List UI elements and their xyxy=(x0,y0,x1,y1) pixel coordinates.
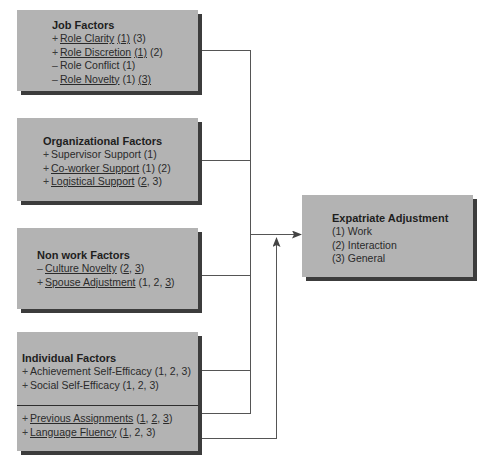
individual-factors-list-bottom: +Previous Assignments (1, 2, 3)+Language… xyxy=(22,412,172,439)
dimension-ref: (1) (2) xyxy=(142,162,171,174)
factor-name: Spouse Adjustment xyxy=(45,276,135,288)
factor-item: +Previous Assignments (1, 2, 3) xyxy=(22,412,172,426)
factor-name: Social Self-Efficacy xyxy=(30,379,120,391)
nonwork-factors-list: –Culture Novelty (2, 3)+Spouse Adjustmen… xyxy=(37,262,198,289)
dimension-ref: (1) xyxy=(117,32,130,44)
factor-name: Culture Novelty xyxy=(45,262,117,274)
effect-sign: + xyxy=(52,32,60,46)
effect-sign: + xyxy=(22,379,30,393)
dimension-ref: (1, 2, 3) xyxy=(155,365,191,377)
dimension-ref: (2) xyxy=(147,46,163,58)
factor-item: +Co-worker Support (1) (2) xyxy=(43,162,198,176)
factor-item: +Social Self-Efficacy (1, 2, 3) xyxy=(22,379,191,393)
nonwork-factors-box: Non work Factors –Culture Novelty (2, 3)… xyxy=(17,228,198,309)
factor-name: Logistical Support xyxy=(51,175,134,187)
individual-factors-bottom-section: +Previous Assignments (1, 2, 3)+Language… xyxy=(22,412,172,439)
job-factors-list: +Role Clarity (1) (3)+Role Discretion (1… xyxy=(52,32,198,86)
dimension-ref: ) xyxy=(141,262,145,274)
organizational-factors-title: Organizational Factors xyxy=(43,135,198,148)
job-factors-title: Job Factors xyxy=(52,19,198,32)
dimension-ref: (1) xyxy=(144,148,157,160)
factor-item: +Role Clarity (1) (3) xyxy=(52,32,198,46)
expatriate-adjustment-box: Expatriate Adjustment (1) Work (2) Inter… xyxy=(302,195,473,277)
dimension-ref: (1) xyxy=(134,46,147,58)
dimension-ref: (1) xyxy=(122,59,135,71)
dimension-ref: (3) xyxy=(138,73,151,85)
dimension-ref: (1, 2, 3) xyxy=(123,379,159,391)
factor-item: +Role Discretion (1) (2) xyxy=(52,46,198,60)
organizational-factors-list: +Supervisor Support (1)+Co-worker Suppor… xyxy=(43,148,198,189)
expatriate-adjustment-title: Expatriate Adjustment xyxy=(332,212,473,225)
factor-name: Previous Assignments xyxy=(30,412,133,424)
outcome-item-work: (1) Work xyxy=(332,225,473,239)
effect-sign: + xyxy=(22,365,30,379)
factor-name: Co-worker Support xyxy=(51,162,139,174)
factor-name: Role Conflict xyxy=(60,59,120,71)
nonwork-factors-title: Non work Factors xyxy=(37,249,198,262)
individual-factors-title: Individual Factors xyxy=(22,352,191,365)
factor-item: –Culture Novelty (2, 3) xyxy=(37,262,198,276)
dimension-ref: (1) xyxy=(122,73,138,85)
effect-sign: – xyxy=(37,262,45,276)
factor-item: +Achievement Self-Efficacy (1, 2, 3) xyxy=(22,365,191,379)
effect-sign: + xyxy=(22,412,30,426)
individual-factors-list-top: +Achievement Self-Efficacy (1, 2, 3)+Soc… xyxy=(22,365,191,392)
factor-name: Achievement Self-Efficacy xyxy=(30,365,152,377)
effect-sign: + xyxy=(22,426,30,440)
dimension-ref: ) xyxy=(169,412,173,424)
factor-name: Language Fluency xyxy=(30,426,116,438)
individual-factors-box: Individual Factors +Achievement Self-Eff… xyxy=(17,332,198,451)
effect-sign: – xyxy=(52,73,60,87)
effect-sign: + xyxy=(37,276,45,290)
effect-sign: + xyxy=(43,162,51,176)
effect-sign: + xyxy=(43,175,51,189)
effect-sign: – xyxy=(52,59,60,73)
organizational-factors-box: Organizational Factors +Supervisor Suppo… xyxy=(17,118,198,201)
factor-name: Role Clarity xyxy=(60,32,114,44)
factor-item: –Role Novelty (1) (3) xyxy=(52,73,198,87)
dimension-ref: , 3) xyxy=(147,175,162,187)
factor-name: Role Novelty xyxy=(60,73,120,85)
factor-item: +Spouse Adjustment (1, 2, 3) xyxy=(37,276,198,290)
factor-item: +Supervisor Support (1) xyxy=(43,148,198,162)
individual-factors-top-section: Individual Factors +Achievement Self-Eff… xyxy=(22,352,191,392)
factor-item: +Logistical Support (2, 3) xyxy=(43,175,198,189)
factor-name: Role Discretion xyxy=(60,46,131,58)
dimension-ref: (3) xyxy=(130,32,146,44)
factor-item: –Role Conflict (1) xyxy=(52,59,198,73)
dimension-ref: ) xyxy=(171,276,175,288)
individual-factors-divider xyxy=(17,405,198,406)
factor-item: +Language Fluency (1, 2, 3) xyxy=(22,426,172,440)
job-factors-box: Job Factors +Role Clarity (1) (3)+Role D… xyxy=(17,10,198,91)
outcome-item-general: (3) General xyxy=(332,252,473,266)
dimension-ref: (1, 2, xyxy=(138,276,165,288)
effect-sign: + xyxy=(52,46,60,60)
outcome-item-interaction: (2) Interaction xyxy=(332,239,473,253)
dimension-ref: , 2, 3) xyxy=(129,426,156,438)
factor-name: Supervisor Support xyxy=(51,148,141,160)
effect-sign: + xyxy=(43,148,51,162)
